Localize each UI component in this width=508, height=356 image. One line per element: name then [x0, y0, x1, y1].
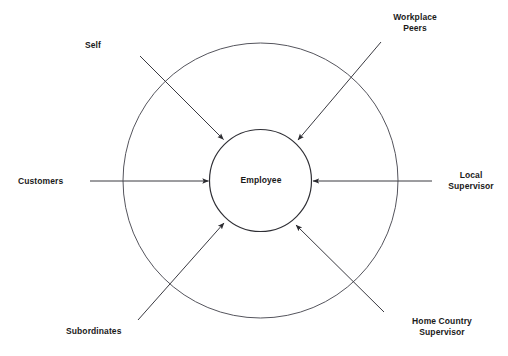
arrow-subordinates: [138, 223, 224, 320]
label-subordinates: Subordinates: [66, 326, 148, 337]
arrow-workplace-peers: [298, 42, 381, 140]
label-local-supervisor: Local Supervisor: [437, 170, 505, 192]
label-workplace-peers: Workplace Peers: [372, 12, 458, 34]
diagram-canvas: Employee Self Workplace Peers Customers …: [0, 0, 508, 356]
label-home-country-supervisor: Home Country Supervisor: [390, 316, 494, 338]
label-self: Self: [85, 40, 125, 51]
arrow-self: [140, 56, 224, 140]
label-customers: Customers: [18, 176, 84, 187]
arrow-home-country-supervisor: [296, 225, 384, 312]
label-employee: Employee: [222, 175, 300, 186]
